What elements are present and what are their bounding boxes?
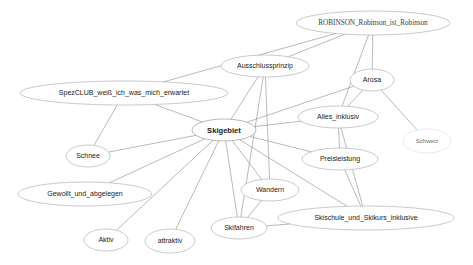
- graph-edge: [339, 128, 340, 148]
- graph-node-arosa[interactable]: Arosa: [350, 69, 394, 91]
- graph-node-skigebiet[interactable]: Skigebiet: [192, 119, 256, 141]
- graph-edge: [176, 141, 219, 229]
- graph-node-spezclub[interactable]: SpezCLUB_weiß_ich_was_mich_erwartet: [20, 81, 228, 105]
- graph-edge: [348, 90, 363, 106]
- network-diagram-canvas: ROBINSON_Robinson_ist_RobinsonAusschluss…: [0, 0, 473, 265]
- graph-edge: [265, 77, 269, 179]
- graph-node-attraktiv[interactable]: attraktiv: [145, 229, 195, 253]
- graph-node-schnee[interactable]: Schnee: [66, 145, 110, 167]
- node-label-attraktiv: attraktiv: [158, 237, 183, 244]
- graph-edge: [288, 34, 345, 57]
- graph-edge: [231, 77, 258, 119]
- node-label-wandern: Wandern: [256, 186, 284, 193]
- node-label-aktiv: Aktiv: [98, 236, 114, 243]
- node-label-ausschlussprinzip: Ausschlussprinzip: [237, 62, 293, 70]
- node-label-spezclub: SpezCLUB_weiß_ich_was_mich_erwartet: [59, 89, 189, 97]
- graph-node-aktiv[interactable]: Aktiv: [84, 229, 128, 251]
- node-label-arosa: Arosa: [363, 76, 381, 83]
- node-label-gewollt: Gewollt_und_abgelegen: [47, 190, 123, 198]
- graph-edge: [372, 35, 373, 69]
- graph-edge: [109, 135, 196, 152]
- graph-node-robinson[interactable]: ROBINSON_Robinson_ist_Robinson: [296, 11, 450, 35]
- node-label-skigebiet: Skigebiet: [207, 126, 241, 135]
- graph-node-wandern[interactable]: Wandern: [241, 179, 299, 201]
- graph-edge: [226, 141, 238, 217]
- node-label-schweiz: Schweiz: [416, 138, 438, 144]
- graph-node-skischule[interactable]: Skischule_und_Skikurs_inklusive: [278, 206, 454, 230]
- graph-node-schweiz[interactable]: Schweiz: [403, 129, 451, 153]
- node-label-skifahren: Skifahren: [224, 224, 254, 231]
- graph-edge: [266, 224, 289, 226]
- graph-edge: [94, 105, 117, 145]
- graph-edge: [254, 121, 301, 126]
- graph-node-ausschlussprinzip[interactable]: Ausschlussprinzip: [221, 55, 309, 77]
- graph-node-alles_inklusiv[interactable]: Alles_inklusiv: [298, 106, 378, 128]
- graph-edge: [232, 141, 262, 180]
- node-label-robinson: ROBINSON_Robinson_ist_Robinson: [318, 19, 428, 27]
- graph-node-preisleistung[interactable]: Preisleistung: [302, 148, 378, 170]
- graph-edge: [381, 90, 417, 130]
- graph-edge: [250, 136, 311, 151]
- graph-edge: [345, 170, 361, 206]
- graph-edge: [248, 201, 262, 218]
- node-label-alles_inklusiv: Alles_inklusiv: [317, 113, 360, 121]
- graph-node-gewollt[interactable]: Gewollt_und_abgelegen: [18, 182, 152, 206]
- network-diagram-svg: ROBINSON_Robinson_ist_RobinsonAusschluss…: [0, 0, 473, 265]
- node-label-preisleistung: Preisleistung: [320, 155, 360, 163]
- node-label-schnee: Schnee: [76, 152, 100, 159]
- nodes-layer: ROBINSON_Robinson_ist_RobinsonAusschluss…: [18, 11, 454, 253]
- node-label-skischule: Skischule_und_Skikurs_inklusive: [314, 214, 417, 222]
- graph-edge: [155, 104, 202, 121]
- graph-node-skifahren[interactable]: Skifahren: [211, 217, 267, 239]
